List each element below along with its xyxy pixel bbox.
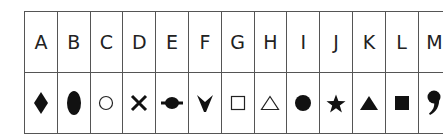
hollow-triangle-icon <box>260 95 280 111</box>
cell-letter-c: C <box>91 12 124 72</box>
hollow-square-icon <box>230 95 246 111</box>
cell-symbol-i <box>287 73 320 133</box>
letter-label: C <box>100 33 113 52</box>
cell-letter-a: A <box>25 12 58 72</box>
letter-label: K <box>363 33 375 52</box>
cell-letter-k: K <box>353 12 386 72</box>
letter-label: L <box>396 33 407 52</box>
cell-letter-g: G <box>222 12 255 72</box>
symbol-table: A B C D E F G H I J K L M <box>24 11 443 134</box>
cell-symbol-k <box>353 73 386 133</box>
letter-label: I <box>300 33 306 52</box>
cell-symbol-e <box>156 73 189 133</box>
cell-letter-j: J <box>320 12 353 72</box>
letter-label: E <box>166 33 178 52</box>
filled-v-arrow-icon <box>196 93 214 113</box>
cell-symbol-c <box>91 73 124 133</box>
disc-with-bar-icon <box>160 95 184 111</box>
filled-triangle-icon <box>359 95 379 111</box>
letter-label: D <box>132 33 147 52</box>
letter-label: G <box>230 33 245 52</box>
cell-letter-d: D <box>123 12 156 72</box>
cell-letter-m: M <box>419 12 443 72</box>
cell-symbol-l <box>386 73 419 133</box>
letter-label: M <box>426 33 442 52</box>
filled-star-icon <box>326 94 346 113</box>
cell-letter-f: F <box>189 12 222 72</box>
comma-icon <box>427 90 441 116</box>
cell-symbol-j <box>320 73 353 133</box>
cell-letter-i: I <box>287 12 320 72</box>
cell-letter-b: B <box>58 12 91 72</box>
filled-circle-icon <box>294 94 312 112</box>
cell-symbol-m <box>419 73 443 133</box>
cell-letter-l: L <box>386 12 419 72</box>
cell-symbol-f <box>189 73 222 133</box>
letter-label: F <box>199 33 210 52</box>
cell-symbol-a <box>25 73 58 133</box>
cell-symbol-g <box>222 73 255 133</box>
filled-square-icon <box>394 95 410 111</box>
letter-row: A B C D E F G H I J K L M <box>25 12 443 73</box>
letter-label: H <box>263 33 277 52</box>
filled-ellipse-icon <box>66 90 82 116</box>
cell-symbol-h <box>255 73 288 133</box>
cell-symbol-b <box>58 73 91 133</box>
letter-label: A <box>34 33 47 52</box>
filled-diamond-icon <box>33 91 49 115</box>
cell-symbol-d <box>123 73 156 133</box>
cell-letter-e: E <box>156 12 189 72</box>
letter-label: J <box>333 33 339 52</box>
letter-label: B <box>67 33 80 52</box>
cell-letter-h: H <box>255 12 288 72</box>
cross-x-icon <box>130 94 148 112</box>
hollow-circle-icon <box>98 95 114 111</box>
symbol-row <box>25 73 443 133</box>
